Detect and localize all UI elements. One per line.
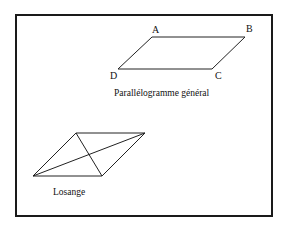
parallelogram-shape: [118, 37, 245, 69]
geometry-diagram: A B C D Parallélogramme général Losange: [0, 0, 286, 233]
vertex-label-d: D: [110, 70, 117, 81]
parallelogram-caption: Parallélogramme général: [114, 88, 210, 98]
vertex-label-c: C: [215, 70, 222, 81]
vertex-label-b: B: [246, 23, 253, 34]
vertex-label-a: A: [152, 24, 160, 35]
rhombus-caption: Losange: [53, 187, 85, 197]
rhombus-diagonal-long: [33, 133, 145, 176]
